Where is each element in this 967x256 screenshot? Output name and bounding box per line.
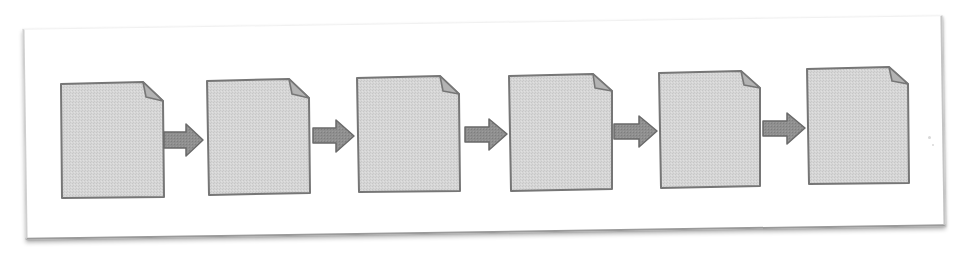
document-4 [509, 74, 612, 191]
page-fold-icon [741, 71, 760, 88]
page-fold-icon [440, 76, 459, 94]
arrow-right-icon [164, 124, 203, 156]
document-page-icon [659, 71, 760, 188]
document-1 [61, 82, 164, 198]
arrow-right-icon [614, 116, 657, 147]
document-page-icon [61, 82, 164, 198]
document-page-icon [207, 79, 310, 195]
scan-speck [932, 144, 934, 146]
document-2 [207, 79, 310, 195]
page-fold-icon [889, 67, 908, 84]
arrow-right-icon [313, 120, 354, 152]
document-page-icon [357, 76, 460, 192]
page-fold-icon [593, 74, 612, 91]
document-page-icon [509, 74, 612, 191]
scan-speck [928, 136, 931, 139]
document-5 [659, 71, 760, 188]
document-flow-diagram [0, 0, 967, 256]
document-3 [357, 76, 460, 192]
arrow-right-icon [763, 113, 805, 144]
document-page-icon [807, 67, 909, 184]
arrow-right-icon [465, 119, 507, 150]
document-6 [807, 67, 909, 184]
